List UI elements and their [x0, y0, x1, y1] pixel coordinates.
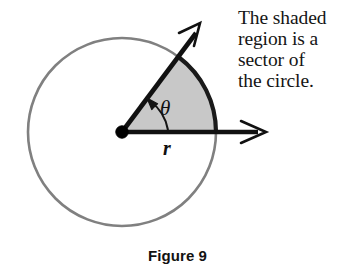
radius-r-label: r — [163, 137, 171, 160]
angle-theta-label: θ — [160, 96, 170, 121]
center-vertex-dot — [116, 126, 128, 138]
figure-container: θ r The shaded region is a sector of the… — [0, 0, 355, 270]
figure-caption: Figure 9 — [0, 247, 355, 264]
annotation-text: The shaded region is a sector of the cir… — [238, 7, 355, 91]
